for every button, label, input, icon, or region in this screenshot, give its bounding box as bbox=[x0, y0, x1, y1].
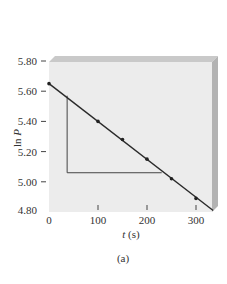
x-tick-label: 0 bbox=[46, 214, 52, 226]
plot-frame-top bbox=[49, 56, 218, 62]
chart: 4.805.005.205.405.605.80 0100200300 ln P… bbox=[0, 0, 227, 284]
plot-area bbox=[49, 62, 212, 212]
data-point bbox=[96, 120, 100, 124]
plot-frame-right bbox=[212, 56, 218, 212]
y-tick-label: 4.80 bbox=[18, 204, 38, 216]
y-tick-label: 5.00 bbox=[18, 176, 38, 188]
data-point bbox=[170, 177, 174, 181]
y-axis-title: ln P bbox=[11, 129, 23, 147]
data-point bbox=[194, 197, 198, 201]
y-tick-label: 5.40 bbox=[18, 115, 38, 127]
x-tick-label: 300 bbox=[188, 214, 205, 226]
y-tick-label: 5.60 bbox=[18, 85, 38, 97]
data-point bbox=[145, 157, 149, 161]
x-tick-label: 200 bbox=[139, 214, 156, 226]
data-point bbox=[121, 138, 125, 142]
data-point bbox=[47, 82, 51, 86]
y-tick-label: 5.80 bbox=[18, 55, 38, 67]
figure-caption: (a) bbox=[117, 252, 130, 265]
x-axis-title: t (s) bbox=[122, 228, 140, 241]
x-tick-label: 100 bbox=[90, 214, 107, 226]
